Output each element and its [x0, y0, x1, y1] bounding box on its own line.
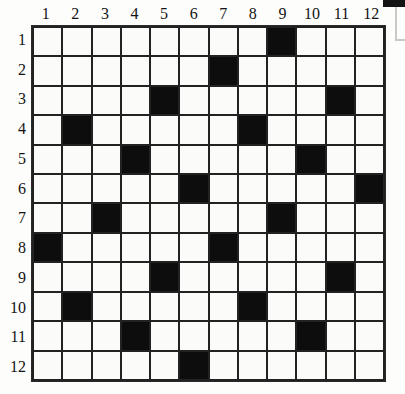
cell-r7-c7[interactable] [210, 204, 237, 231]
cell-r4-c11[interactable] [327, 116, 354, 143]
cell-r7-c5[interactable] [151, 204, 178, 231]
cell-r3-c6[interactable] [180, 87, 207, 114]
cell-r9-c11[interactable] [327, 263, 354, 290]
cell-r7-c9[interactable] [268, 204, 295, 231]
cell-r10-c12[interactable] [356, 293, 383, 320]
cell-r6-c3[interactable] [93, 175, 120, 202]
cell-r12-c9[interactable] [268, 352, 295, 379]
cell-r10-c4[interactable] [122, 293, 149, 320]
cell-r8-c8[interactable] [239, 234, 266, 261]
cell-r6-c5[interactable] [151, 175, 178, 202]
cell-r2-c10[interactable] [297, 57, 324, 84]
cell-r9-c10[interactable] [297, 263, 324, 290]
cell-r6-c10[interactable] [297, 175, 324, 202]
cell-r6-c9[interactable] [268, 175, 295, 202]
cell-r9-c9[interactable] [268, 263, 295, 290]
cell-r2-c9[interactable] [268, 57, 295, 84]
cell-r5-c2[interactable] [63, 146, 90, 173]
cell-r11-c3[interactable] [93, 322, 120, 349]
cell-r12-c2[interactable] [63, 352, 90, 379]
cell-r12-c8[interactable] [239, 352, 266, 379]
cell-r1-c3[interactable] [93, 28, 120, 55]
cell-r3-c9[interactable] [268, 87, 295, 114]
cell-r5-c9[interactable] [268, 146, 295, 173]
cell-r1-c8[interactable] [239, 28, 266, 55]
cell-r9-c7[interactable] [210, 263, 237, 290]
cell-r6-c4[interactable] [122, 175, 149, 202]
cell-r7-c4[interactable] [122, 204, 149, 231]
cell-r7-c2[interactable] [63, 204, 90, 231]
cell-r8-c2[interactable] [63, 234, 90, 261]
cell-r9-c5[interactable] [151, 263, 178, 290]
cell-r1-c9[interactable] [268, 28, 295, 55]
cell-r3-c12[interactable] [356, 87, 383, 114]
cell-r6-c6[interactable] [180, 175, 207, 202]
cell-r8-c10[interactable] [297, 234, 324, 261]
cell-grid[interactable] [31, 25, 386, 382]
cell-r2-c7[interactable] [210, 57, 237, 84]
cell-r9-c1[interactable] [34, 263, 61, 290]
cell-r7-c1[interactable] [34, 204, 61, 231]
cell-r6-c2[interactable] [63, 175, 90, 202]
cell-r6-c11[interactable] [327, 175, 354, 202]
cell-r5-c1[interactable] [34, 146, 61, 173]
cell-r2-c5[interactable] [151, 57, 178, 84]
cell-r2-c4[interactable] [122, 57, 149, 84]
cell-r10-c1[interactable] [34, 293, 61, 320]
cell-r9-c6[interactable] [180, 263, 207, 290]
cell-r5-c10[interactable] [297, 146, 324, 173]
cell-r9-c2[interactable] [63, 263, 90, 290]
cell-r3-c5[interactable] [151, 87, 178, 114]
cell-r7-c8[interactable] [239, 204, 266, 231]
cell-r4-c3[interactable] [93, 116, 120, 143]
cell-r10-c10[interactable] [297, 293, 324, 320]
cell-r5-c7[interactable] [210, 146, 237, 173]
cell-r9-c3[interactable] [93, 263, 120, 290]
cell-r9-c4[interactable] [122, 263, 149, 290]
cell-r11-c4[interactable] [122, 322, 149, 349]
cell-r3-c3[interactable] [93, 87, 120, 114]
cell-r1-c10[interactable] [297, 28, 324, 55]
cell-r5-c4[interactable] [122, 146, 149, 173]
cell-r1-c7[interactable] [210, 28, 237, 55]
cell-r12-c3[interactable] [93, 352, 120, 379]
cell-r7-c3[interactable] [93, 204, 120, 231]
cell-r12-c5[interactable] [151, 352, 178, 379]
cell-r9-c8[interactable] [239, 263, 266, 290]
cell-r12-c10[interactable] [297, 352, 324, 379]
cell-r8-c6[interactable] [180, 234, 207, 261]
cell-r2-c2[interactable] [63, 57, 90, 84]
cell-r3-c1[interactable] [34, 87, 61, 114]
cell-r11-c11[interactable] [327, 322, 354, 349]
cell-r12-c11[interactable] [327, 352, 354, 379]
cell-r8-c9[interactable] [268, 234, 295, 261]
cell-r5-c11[interactable] [327, 146, 354, 173]
cell-r12-c12[interactable] [356, 352, 383, 379]
cell-r7-c10[interactable] [297, 204, 324, 231]
cell-r8-c7[interactable] [210, 234, 237, 261]
cell-r11-c8[interactable] [239, 322, 266, 349]
cell-r11-c2[interactable] [63, 322, 90, 349]
cell-r8-c12[interactable] [356, 234, 383, 261]
cell-r4-c12[interactable] [356, 116, 383, 143]
cell-r5-c3[interactable] [93, 146, 120, 173]
cell-r10-c2[interactable] [63, 293, 90, 320]
cell-r3-c11[interactable] [327, 87, 354, 114]
cell-r11-c12[interactable] [356, 322, 383, 349]
cell-r3-c8[interactable] [239, 87, 266, 114]
cell-r12-c7[interactable] [210, 352, 237, 379]
cell-r11-c9[interactable] [268, 322, 295, 349]
cell-r9-c12[interactable] [356, 263, 383, 290]
cell-r4-c1[interactable] [34, 116, 61, 143]
cell-r8-c11[interactable] [327, 234, 354, 261]
cell-r2-c6[interactable] [180, 57, 207, 84]
cell-r8-c5[interactable] [151, 234, 178, 261]
cell-r10-c9[interactable] [268, 293, 295, 320]
cell-r3-c10[interactable] [297, 87, 324, 114]
cell-r5-c8[interactable] [239, 146, 266, 173]
cell-r1-c4[interactable] [122, 28, 149, 55]
cell-r11-c1[interactable] [34, 322, 61, 349]
cell-r12-c1[interactable] [34, 352, 61, 379]
cell-r10-c7[interactable] [210, 293, 237, 320]
cell-r7-c11[interactable] [327, 204, 354, 231]
